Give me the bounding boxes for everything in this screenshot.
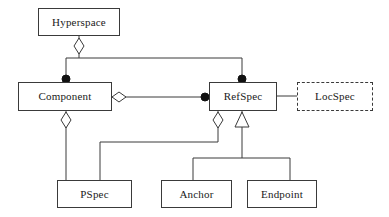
class-box-refspec[interactable]: RefSpec xyxy=(209,82,277,111)
class-name-pspec: PSpec xyxy=(80,189,109,200)
class-name-component: Component xyxy=(38,91,91,102)
connector-hyperspace-aggregation-tree xyxy=(66,36,242,82)
aggregation-hollow-diamond-refspec-pspec xyxy=(213,112,223,128)
class-box-locspec[interactable]: LocSpec xyxy=(297,82,373,111)
class-name-locspec: LocSpec xyxy=(315,91,355,102)
class-box-component[interactable]: Component xyxy=(18,82,112,111)
class-name-refspec: RefSpec xyxy=(224,91,263,102)
generalization-hollow-triangle-refspec xyxy=(235,112,249,127)
aggregation-hollow-diamond-component-refspec xyxy=(112,92,126,102)
class-name-anchor: Anchor xyxy=(179,189,213,200)
connector-refspec-pspec xyxy=(100,111,218,180)
class-name-endpoint: Endpoint xyxy=(261,189,303,200)
uml-class-diagram: Hyperspace Component RefSpec LocSpec PSp… xyxy=(0,0,389,217)
class-box-pspec[interactable]: PSpec xyxy=(57,180,132,208)
class-box-hyperspace[interactable]: Hyperspace xyxy=(38,8,120,36)
class-box-anchor[interactable]: Anchor xyxy=(161,180,232,208)
class-box-endpoint[interactable]: Endpoint xyxy=(247,180,317,208)
aggregation-hollow-diamond-hyperspace xyxy=(74,38,84,54)
composition-filled-circle-refspec-left xyxy=(201,93,209,101)
class-name-hyperspace: Hyperspace xyxy=(52,17,106,28)
aggregation-hollow-diamond-component-pspec xyxy=(61,112,71,128)
